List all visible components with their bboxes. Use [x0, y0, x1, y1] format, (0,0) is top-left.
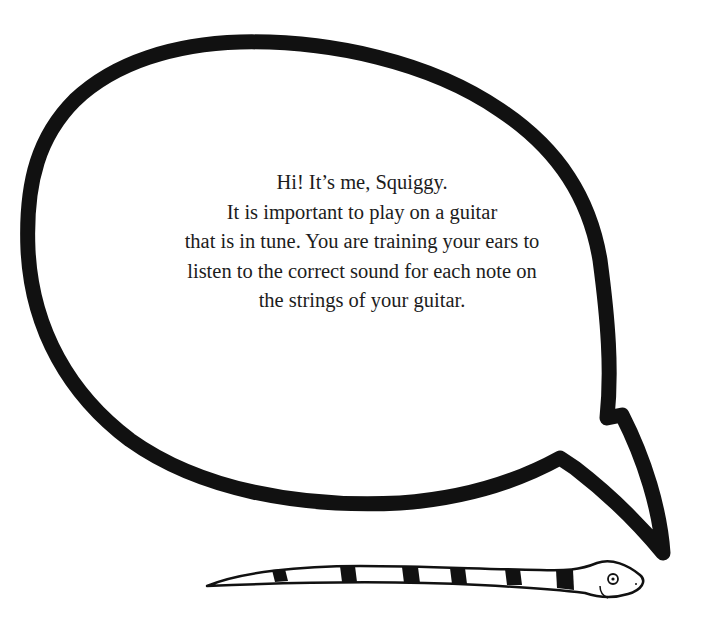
- snake-icon: [207, 561, 643, 598]
- speech-line-4: listen to the correct sound for each not…: [150, 257, 574, 287]
- speech-line-5: the strings of your guitar.: [150, 286, 574, 316]
- speech-line-1: Hi! It’s me, Squiggy.: [150, 168, 574, 198]
- speech-bubble-illustration: [0, 0, 711, 643]
- snake-nostril: [635, 583, 637, 585]
- speech-line-3: that is in tune. You are training your e…: [150, 227, 574, 257]
- speech-bubble-text: Hi! It’s me, Squiggy. It is important to…: [150, 168, 574, 316]
- snake-body: [207, 561, 643, 597]
- speech-line-2: It is important to play on a guitar: [150, 198, 574, 228]
